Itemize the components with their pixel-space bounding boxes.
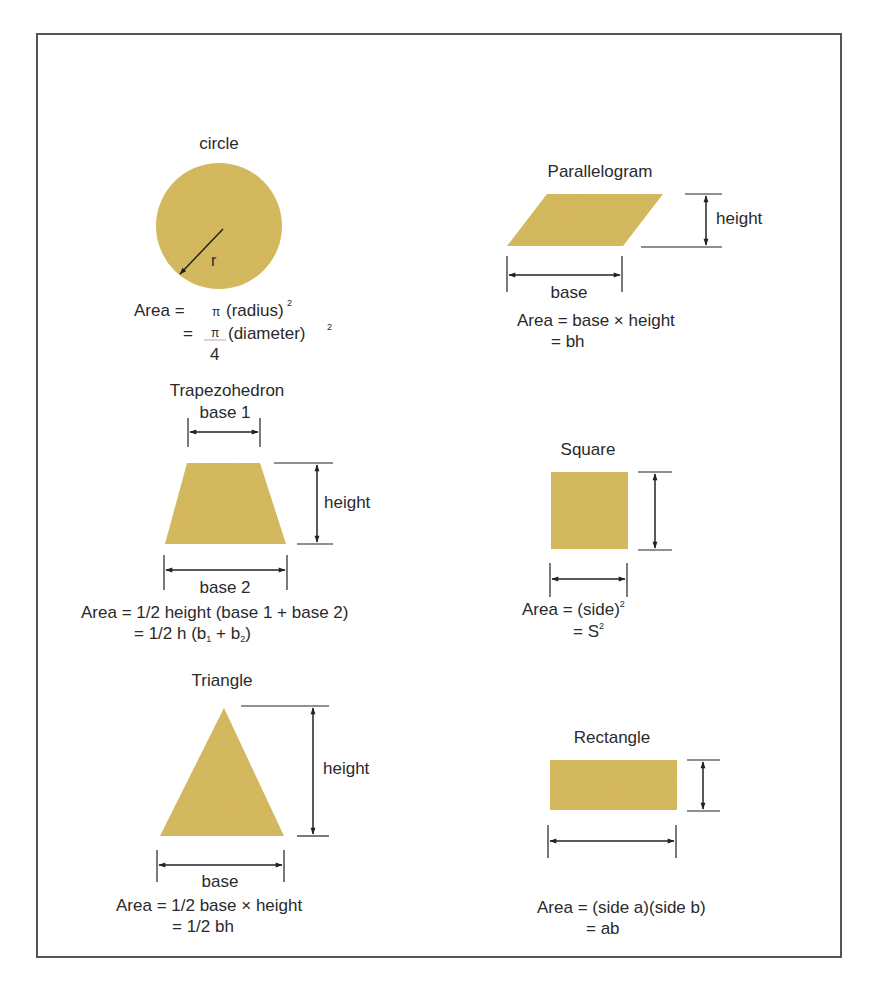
parallelogram-height-label: height <box>716 209 763 228</box>
rectangle-formula-line1: Area = (side a)(side b) <box>537 898 706 917</box>
trapezoid-base1-label: base 1 <box>199 403 250 422</box>
square-shape <box>551 472 628 549</box>
triangle-base-label: base <box>202 872 239 891</box>
trapezoid-height-label: height <box>324 493 371 512</box>
circle-formula-prefix: Area = <box>134 301 185 320</box>
rectangle-formula-line2: = ab <box>586 919 620 938</box>
circle-formula-line2: (diameter) <box>228 324 305 343</box>
parallelogram-figure: Parallelogram height base Area = base × … <box>507 162 763 351</box>
triangle-formula-line2: = 1/2 bh <box>172 917 234 936</box>
shapes-diagram: circle r Area = π (radius) 2 = π 4 (diam… <box>0 0 871 981</box>
pi-numerator: π <box>211 326 219 340</box>
triangle-height-label: height <box>323 759 370 778</box>
trapezoid-shape <box>165 463 286 544</box>
circle-denominator: 4 <box>210 345 219 364</box>
circle-formula-line2-sup: 2 <box>327 322 332 332</box>
triangle-figure: Triangle height base Area = 1/2 base × h… <box>116 671 370 936</box>
pi-symbol: π <box>212 305 220 319</box>
circle-formula-line2-prefix: = <box>183 324 193 343</box>
triangle-shape <box>160 708 284 836</box>
square-formula-line2: = S2 <box>573 621 604 641</box>
triangle-title: Triangle <box>192 671 253 690</box>
trapezoid-title: Trapezohedron <box>170 381 285 400</box>
trapezoid-formula-line2: = 1/2 h (b1 + b2) <box>134 624 251 644</box>
circle-formula-line1: (radius) <box>226 301 284 320</box>
radius-label: r <box>211 252 217 269</box>
parallelogram-formula-line2: = bh <box>551 332 585 351</box>
parallelogram-formula-line1: Area = base × height <box>517 311 675 330</box>
square-figure: Square Area = (side)2 = S2 <box>522 440 672 641</box>
circle-title: circle <box>199 134 239 153</box>
rectangle-title: Rectangle <box>574 728 651 747</box>
parallelogram-base-label: base <box>551 283 588 302</box>
circle-formula-line1-sup: 2 <box>287 298 292 308</box>
circle-figure: circle r Area = π (radius) 2 = π 4 (diam… <box>134 134 332 364</box>
parallelogram-title: Parallelogram <box>548 162 653 181</box>
trapezoid-figure: Trapezohedron base 1 height base 2 Area … <box>81 381 371 644</box>
parallelogram-shape <box>507 194 663 246</box>
rectangle-shape <box>550 760 677 810</box>
circle-shape <box>156 163 282 289</box>
trapezoid-formula-line1: Area = 1/2 height (base 1 + base 2) <box>81 603 348 622</box>
square-formula-line1: Area = (side)2 <box>522 599 625 619</box>
square-title: Square <box>561 440 616 459</box>
triangle-formula-line1: Area = 1/2 base × height <box>116 896 302 915</box>
rectangle-figure: Rectangle Area = (side a)(side b) = ab <box>537 728 720 938</box>
trapezoid-base2-label: base 2 <box>199 578 250 597</box>
